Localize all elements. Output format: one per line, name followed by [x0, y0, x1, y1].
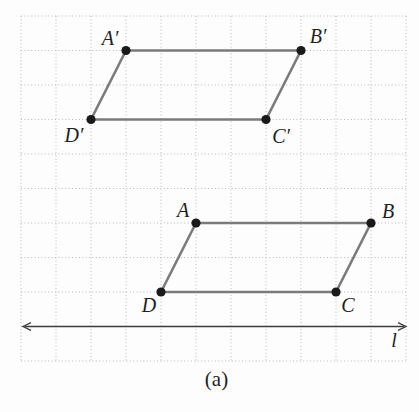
figure: lA′B′C′D′ABCD (a): [0, 0, 419, 412]
vertex-label-B: B: [382, 200, 394, 222]
vertex-dot-B: [366, 218, 375, 227]
vertex-label-B-prime: B′: [310, 25, 327, 47]
vertex-dot-D: [156, 287, 165, 296]
vertex-dot-A-prime: [121, 46, 130, 55]
vertex-label-C-prime: C′: [272, 125, 290, 147]
vertex-dot-D-prime: [86, 115, 95, 124]
vertex-label-A: A: [175, 199, 190, 221]
vertex-dot-A: [191, 218, 200, 227]
vertex-dot-C: [331, 287, 340, 296]
diagram-canvas: lA′B′C′D′ABCD: [0, 0, 419, 366]
vertex-label-C: C: [341, 294, 355, 316]
vertex-label-D-prime: D′: [64, 124, 84, 146]
vertex-dot-C-prime: [261, 115, 270, 124]
vertex-label-D: D: [141, 294, 157, 316]
mirror-line-label: l: [391, 329, 397, 351]
vertex-dot-B-prime: [296, 46, 305, 55]
figure-caption: (a): [7, 367, 419, 392]
vertex-label-A-prime: A′: [100, 27, 119, 49]
